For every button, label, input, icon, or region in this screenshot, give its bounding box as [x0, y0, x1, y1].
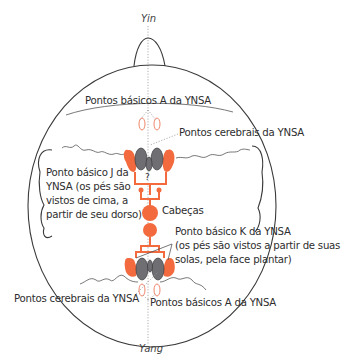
basic-j-label-4: partir de seu dorso): [46, 209, 142, 220]
cerebral-bottom-label: Pontos cerebrais da YNSA: [14, 293, 139, 304]
basic-a-top-left: [139, 118, 145, 130]
yang-label: Yang: [139, 343, 163, 354]
heads-label: Cabeças: [162, 205, 204, 216]
svg-text:?: ?: [145, 172, 150, 182]
upper-brain-right: [151, 148, 163, 170]
nose-outline: [134, 38, 165, 66]
lower-right-foot: [163, 258, 175, 277]
lower-brain-center: [148, 260, 153, 272]
ynsa-head-diagram: ? Yin Pontos básicos A da YNSA Pontos ce…: [0, 0, 347, 363]
lower-wavy-line: [80, 275, 138, 284]
cerebral-top-pointer: [150, 134, 178, 145]
right-ear: [252, 146, 263, 232]
left-ear: [39, 150, 53, 238]
lower-wavy-line-right: [160, 278, 206, 290]
lower-brain-right: [152, 258, 164, 280]
lower-brain-left: [136, 258, 148, 280]
basic-k-label-3: solas, pela face plantar): [175, 254, 292, 265]
upper-wavy-line: [62, 145, 124, 155]
basic-a-top-label: Pontos básicos A da YNSA: [85, 95, 211, 106]
basic-k-pointer-2: [168, 244, 172, 260]
basic-k-label-2: (os pés são vistos a partir de suas: [175, 240, 340, 251]
yin-label: Yin: [141, 13, 156, 24]
lower-cluster: [125, 258, 175, 280]
basic-a-bottom-label: Pontos básicos A da YNSA: [150, 297, 276, 308]
upper-wavy-line-right: [176, 149, 250, 158]
basic-j-label-1: Ponto básico J da: [46, 167, 129, 178]
lower-left-foot: [125, 258, 137, 277]
upper-right-foot: [163, 150, 175, 172]
upper-brain-center: [146, 157, 152, 171]
basic-j-frame: [135, 172, 166, 184]
basic-j-label-3: vistos de cima, a: [46, 195, 128, 206]
head-circle-lower: [143, 223, 157, 237]
basic-k-label-1: Ponto básico K da YNSA: [175, 226, 291, 237]
cerebral-top-label: Pontos cerebrais da YNSA: [179, 127, 304, 138]
basic-j-label-2: YNSA (os pés são: [45, 181, 131, 192]
basic-a-top-right: [154, 118, 160, 130]
upper-brain-left: [135, 148, 147, 170]
basic-a-bottom-right: [154, 284, 160, 296]
head-circle-upper: [142, 205, 158, 221]
